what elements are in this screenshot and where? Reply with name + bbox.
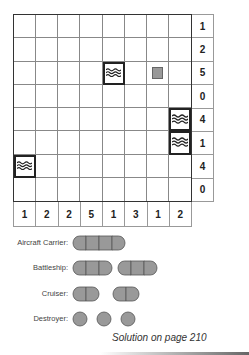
grid-cell[interactable]: [14, 38, 36, 61]
ship-icon: [120, 311, 136, 327]
grid-cell[interactable]: [147, 131, 169, 154]
row-clue: 1: [192, 132, 213, 155]
grid-cell[interactable]: [147, 85, 169, 108]
grid-cell[interactable]: [58, 85, 80, 108]
grid-cell[interactable]: [80, 155, 102, 178]
row-clue: 4: [192, 109, 213, 132]
grid-cell[interactable]: [36, 131, 58, 154]
grid-cell[interactable]: [14, 131, 36, 154]
grid-cell[interactable]: [169, 178, 191, 201]
ship-icon: [72, 235, 126, 251]
grid-cell[interactable]: [169, 108, 191, 131]
ship-icon: [72, 286, 100, 302]
column-clue: 5: [81, 202, 103, 226]
water-waves-icon: [172, 114, 188, 124]
grid-cell[interactable]: [169, 38, 191, 61]
grid-cell[interactable]: [125, 131, 147, 154]
grid-cell[interactable]: [14, 155, 36, 178]
grid-cell[interactable]: [125, 85, 147, 108]
row-clues: 12504140: [192, 14, 214, 202]
grid-cell[interactable]: [58, 38, 80, 61]
grid-cell[interactable]: [58, 178, 80, 201]
grid-cell[interactable]: [147, 38, 169, 61]
fleet-label: Battleship:: [8, 263, 68, 272]
water-waves-icon: [172, 137, 188, 147]
grid-cell[interactable]: [103, 131, 125, 154]
grid-cell[interactable]: [36, 62, 58, 85]
grid-cell[interactable]: [147, 15, 169, 38]
solution-reference: Solution on page 210: [112, 332, 207, 343]
grid-cell[interactable]: [103, 62, 125, 85]
grid-cell[interactable]: [58, 131, 80, 154]
fleet-label: Aircraft Carrier:: [8, 238, 68, 247]
grid-cell[interactable]: [125, 155, 147, 178]
grid-cell[interactable]: [125, 108, 147, 131]
puzzle-grid: [13, 14, 192, 202]
row-clue: 4: [192, 155, 213, 178]
grid-cell[interactable]: [125, 178, 147, 201]
grid-cell[interactable]: [147, 108, 169, 131]
ship-icon: [96, 311, 112, 327]
column-clue: 3: [125, 202, 147, 226]
grid-cell[interactable]: [58, 62, 80, 85]
grid-cell[interactable]: [169, 85, 191, 108]
grid-cell[interactable]: [103, 108, 125, 131]
fleet-label: Destroyer:: [8, 314, 68, 323]
grid-cell[interactable]: [36, 155, 58, 178]
ship-square-icon: [152, 67, 163, 79]
grid-cell[interactable]: [80, 15, 102, 38]
column-clue: 2: [59, 202, 81, 226]
column-clues: 12251312: [13, 202, 192, 227]
ship-icon: [72, 260, 113, 276]
grid-cell[interactable]: [147, 178, 169, 201]
grid-cell[interactable]: [36, 85, 58, 108]
grid-cell[interactable]: [125, 15, 147, 38]
row-clue: 5: [192, 62, 213, 85]
grid-cell[interactable]: [14, 15, 36, 38]
grid-cell[interactable]: [36, 15, 58, 38]
grid-cell[interactable]: [36, 38, 58, 61]
grid-cell[interactable]: [169, 62, 191, 85]
column-clue: 1: [103, 202, 125, 226]
grid-cell[interactable]: [103, 38, 125, 61]
column-clue: 1: [14, 202, 36, 226]
grid-cell[interactable]: [14, 85, 36, 108]
row-clue: 0: [192, 85, 213, 108]
grid-cell[interactable]: [80, 178, 102, 201]
grid-cell[interactable]: [80, 38, 102, 61]
grid-cell[interactable]: [58, 155, 80, 178]
ship-icon: [112, 286, 140, 302]
fleet-label: Cruiser:: [8, 289, 68, 298]
grid-cell[interactable]: [80, 131, 102, 154]
grid-cell[interactable]: [58, 108, 80, 131]
grid-cell[interactable]: [80, 108, 102, 131]
column-clue: 2: [170, 202, 192, 226]
row-clue: 0: [192, 179, 213, 202]
grid-cell[interactable]: [103, 178, 125, 201]
grid-cell[interactable]: [14, 108, 36, 131]
row-clue: 1: [192, 15, 213, 38]
column-clue: 2: [36, 202, 58, 226]
row-clue: 2: [192, 38, 213, 61]
grid-cell[interactable]: [36, 108, 58, 131]
water-waves-icon: [106, 68, 121, 77]
ship-icon: [72, 311, 88, 327]
grid-cell[interactable]: [169, 15, 191, 38]
grid-cell[interactable]: [14, 178, 36, 201]
grid-cell[interactable]: [125, 62, 147, 85]
column-clue: 1: [148, 202, 170, 226]
grid-cell[interactable]: [14, 62, 36, 85]
grid-cell[interactable]: [80, 62, 102, 85]
grid-cell[interactable]: [103, 15, 125, 38]
grid-cell[interactable]: [125, 38, 147, 61]
grid-cell[interactable]: [147, 62, 169, 85]
grid-cell[interactable]: [36, 178, 58, 201]
grid-cell[interactable]: [169, 131, 191, 154]
grid-cell[interactable]: [103, 85, 125, 108]
grid-cell[interactable]: [58, 15, 80, 38]
grid-cell[interactable]: [169, 155, 191, 178]
water-waves-icon: [17, 161, 32, 170]
grid-cell[interactable]: [80, 85, 102, 108]
grid-cell[interactable]: [103, 155, 125, 178]
grid-cell[interactable]: [147, 155, 169, 178]
